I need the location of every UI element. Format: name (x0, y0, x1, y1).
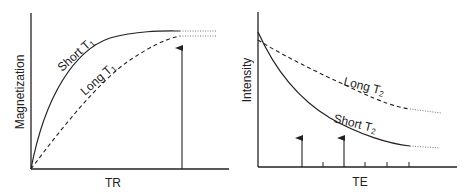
t1-recovery-chart: Short T1 Long T1 Magnetization TR (13, 13, 229, 190)
short-t2-extension (410, 146, 440, 148)
y-axis-label: Intensity (240, 58, 254, 103)
x-ticks (323, 162, 409, 167)
short-t1-curve (31, 31, 180, 169)
long-t2-curve (258, 40, 410, 109)
short-t2-curve (258, 32, 410, 146)
short-t2-label: Short T2 (332, 111, 378, 136)
long-t1-curve (31, 36, 180, 169)
relaxation-diagrams: Short T1 Long T1 Magnetization TR Long T… (0, 0, 469, 194)
short-t1-label: Short T1 (55, 34, 98, 75)
long-t2-label: Long T2 (342, 74, 387, 99)
x-axis-label: TR (105, 176, 121, 190)
t2-decay-chart: Long T2 Short T2 Intensity TE (240, 12, 457, 189)
x-axis-label: TE (352, 175, 367, 189)
long-t2-extension (410, 109, 441, 113)
y-axis-label: Magnetization (13, 55, 27, 130)
long-t1-label: Long T1 (78, 60, 119, 99)
